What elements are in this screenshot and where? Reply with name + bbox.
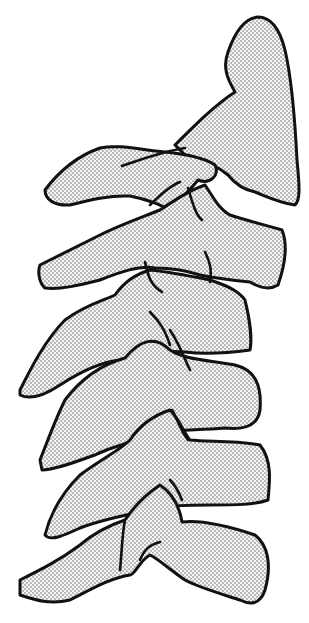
spine-drawing (0, 0, 309, 623)
spine-illustration (0, 0, 309, 623)
